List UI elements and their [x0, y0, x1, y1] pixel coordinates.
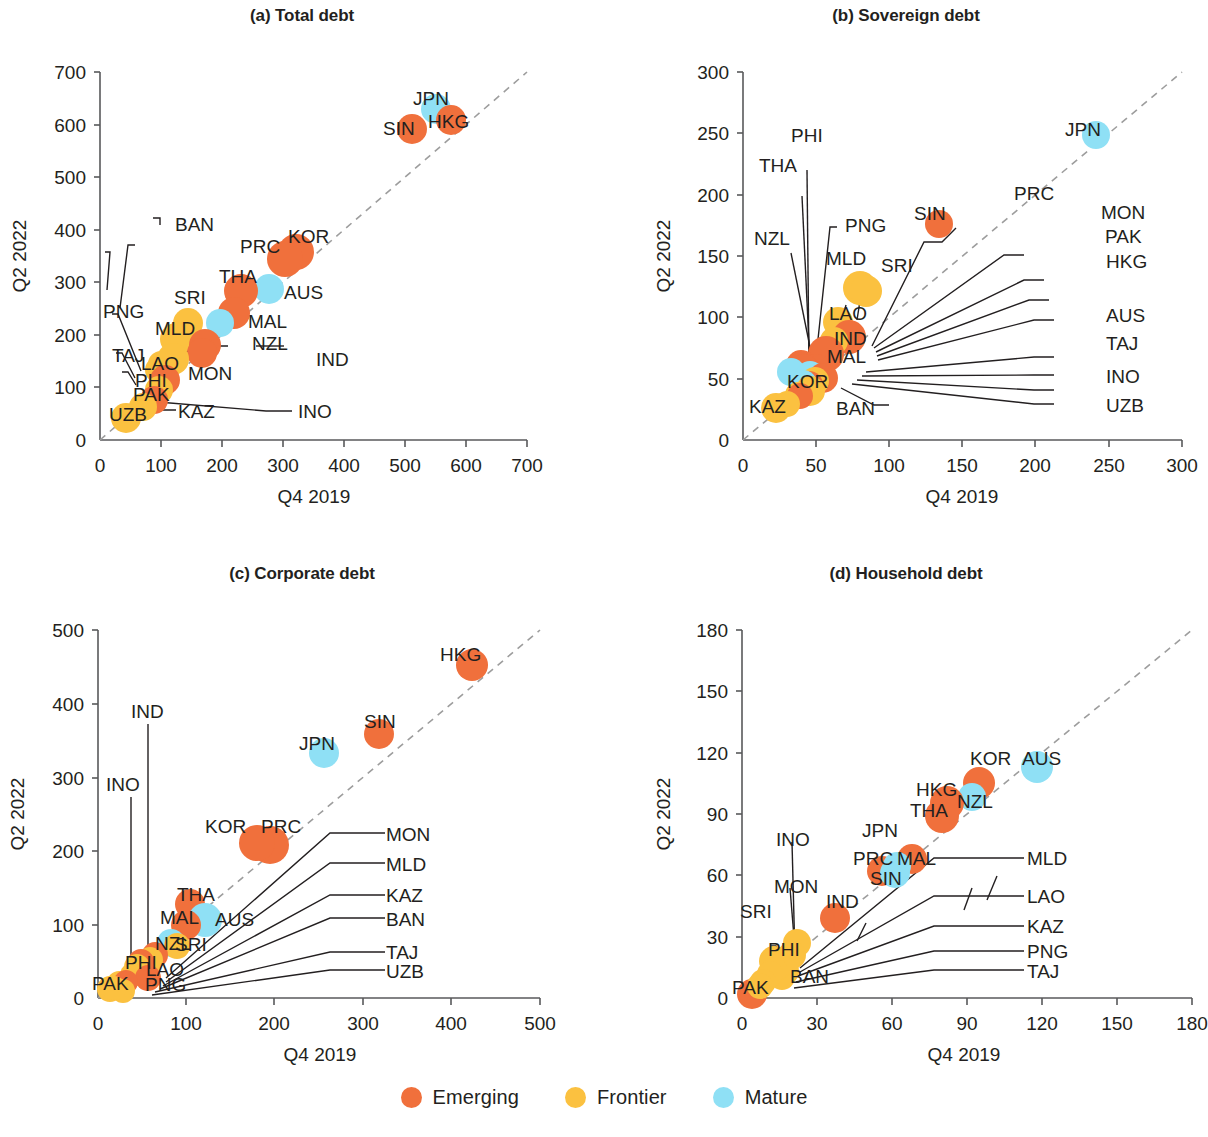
label-SRI: SRI	[174, 287, 206, 308]
ytick: 400	[54, 220, 86, 241]
label-KOR: KOR	[970, 748, 1011, 769]
label-HKG: HKG	[440, 644, 481, 665]
panel-b-x-tick-labels: 0 50 100 150 200 250 300	[738, 455, 1198, 476]
label-KAZ: KAZ	[1027, 916, 1064, 937]
xtick: 150	[1101, 1013, 1133, 1034]
label-MON: MON	[386, 824, 430, 845]
label-PRC: PRC	[1014, 183, 1054, 204]
label-IND: IND	[131, 701, 164, 722]
label-INO: INO	[776, 829, 810, 850]
label-HKG: HKG	[428, 111, 469, 132]
label-SRI: SRI	[175, 934, 207, 955]
xtick: 30	[806, 1013, 827, 1034]
label-HKG: HKG	[1106, 251, 1147, 272]
xtick: 100	[170, 1013, 202, 1034]
ytick: 200	[697, 185, 729, 206]
ytick: 90	[707, 804, 728, 825]
ytick: 100	[697, 307, 729, 328]
label-PNG: PNG	[145, 974, 186, 995]
label-PAK: PAK	[133, 384, 170, 405]
label-SIN: SIN	[364, 711, 396, 732]
label-MLD: MLD	[155, 318, 195, 339]
xtick: 700	[511, 455, 543, 476]
label-MAL: MAL	[248, 311, 287, 332]
xtick: 120	[1026, 1013, 1058, 1034]
debt-scatter-figure: (a) Total debt	[0, 0, 1208, 1137]
panel-d-x-tick-labels: 0 30 60 90 120 150 180	[737, 1013, 1208, 1034]
legend-item-frontier: Frontier	[565, 1086, 667, 1109]
label-PNG: PNG	[103, 301, 144, 322]
label-UZB: UZB	[386, 961, 424, 982]
label-IND: IND	[826, 891, 859, 912]
ytick: 300	[52, 768, 84, 789]
figure-legend: Emerging Frontier Mature	[0, 1086, 1208, 1109]
xtick: 600	[450, 455, 482, 476]
label-INO: INO	[1106, 366, 1140, 387]
ytick: 0	[75, 430, 86, 451]
xtick: 90	[956, 1013, 977, 1034]
panel-c-point-labels: HKG IND SIN JPN INO KOR PRC MON MLD KAZ …	[92, 644, 481, 995]
ytick: 100	[54, 377, 86, 398]
ytick: 180	[696, 620, 728, 641]
label-HKG: HKG	[916, 779, 957, 800]
label-INO: INO	[298, 401, 332, 422]
panel-household-debt: (d) Household debt 180 15	[604, 558, 1208, 1118]
panel-d-plot: 180 150 120 90 60 30 0 0 30 60 90 120 15…	[604, 558, 1208, 1118]
ytick: 60	[707, 865, 728, 886]
panel-a-plot: 700 600 500 400 300 200 100 0 0 100 200 …	[0, 0, 604, 560]
point-AUS	[254, 274, 284, 304]
legend-label-emerging: Emerging	[433, 1086, 519, 1109]
label-MLD: MLD	[386, 854, 426, 875]
label-MON: MON	[188, 363, 232, 384]
ytick: 50	[708, 369, 729, 390]
ytick: 150	[697, 246, 729, 267]
ytick: 200	[54, 325, 86, 346]
xtick: 0	[93, 1013, 104, 1034]
panel-total-debt: (a) Total debt	[0, 0, 604, 560]
label-PRC: PRC	[240, 236, 280, 257]
ytick: 0	[73, 988, 84, 1009]
label-TAJ: TAJ	[1027, 961, 1059, 982]
xtick: 400	[328, 455, 360, 476]
label-NZL: NZL	[957, 791, 993, 812]
label-JPN: JPN	[1065, 119, 1101, 140]
xtick: 250	[1093, 455, 1125, 476]
panel-a-y-tick-labels: 700 600 500 400 300 200 100 0	[54, 62, 86, 451]
label-PAK: PAK	[732, 977, 769, 998]
xtick: 100	[145, 455, 177, 476]
ytick: 700	[54, 62, 86, 83]
label-PNG: PNG	[845, 215, 886, 236]
panel-b-xlabel: Q4 2019	[926, 486, 999, 507]
ytick: 0	[717, 988, 728, 1009]
label-PHI: PHI	[791, 125, 823, 146]
label-JPN: JPN	[299, 733, 335, 754]
xtick: 400	[435, 1013, 467, 1034]
ytick: 120	[696, 743, 728, 764]
panel-d-y-tick-labels: 180 150 120 90 60 30 0	[696, 620, 728, 1009]
label-JPN: JPN	[413, 88, 449, 109]
panel-c-plot: 500 400 300 200 100 0 0 100 200 300 400 …	[0, 558, 604, 1118]
label-THA: THA	[759, 155, 797, 176]
xtick: 500	[389, 455, 421, 476]
label-BAN: BAN	[790, 966, 829, 987]
label-MAL: MAL	[897, 848, 936, 869]
ytick: 500	[52, 620, 84, 641]
label-UZB: UZB	[1106, 395, 1144, 416]
label-KAZ: KAZ	[178, 401, 215, 422]
label-MAL: MAL	[160, 907, 199, 928]
label-PAK: PAK	[92, 973, 129, 994]
ytick: 300	[54, 272, 86, 293]
xtick: 200	[258, 1013, 290, 1034]
label-AUS: AUS	[215, 909, 254, 930]
xtick: 500	[524, 1013, 556, 1034]
ytick: 150	[696, 681, 728, 702]
panel-a-x-tick-labels: 0 100 200 300 400 500 600 700	[95, 455, 543, 476]
ytick: 250	[697, 123, 729, 144]
label-TAJ: TAJ	[1106, 333, 1138, 354]
ytick: 0	[718, 430, 729, 451]
label-SIN: SIN	[914, 203, 946, 224]
label-IND: IND	[316, 349, 349, 370]
label-BAN: BAN	[175, 214, 214, 235]
ytick: 200	[52, 841, 84, 862]
xtick: 100	[873, 455, 905, 476]
